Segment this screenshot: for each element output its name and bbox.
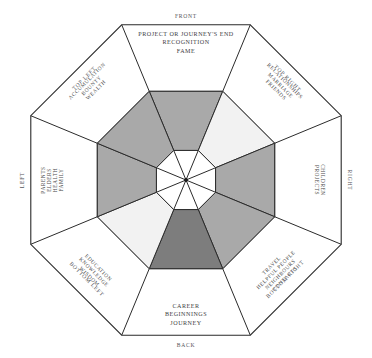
direction-label-front: FRONT (175, 13, 197, 19)
sector-keyword-right: CHILDREN (320, 164, 326, 196)
direction-label-back: BACK (177, 342, 196, 348)
octagon-diagram: PROJECT OR JOURNEY'S ENDRECOGNITIONFAMER… (0, 0, 372, 358)
center-dot (184, 178, 188, 182)
direction-label-left: LEFT (19, 172, 25, 188)
sector-keyword-left: FAMILY (58, 168, 64, 191)
sector-keyword-left: ELDERS (46, 168, 52, 192)
sector-keyword-front: PROJECT OR JOURNEY'S END (138, 31, 234, 37)
sector-keyword-front: RECOGNITION (162, 39, 209, 45)
direction-label-right: RIGHT (347, 170, 353, 191)
sector-keyword-left: PARENTS (40, 166, 46, 193)
diagram-canvas: PROJECT OR JOURNEY'S ENDRECOGNITIONFAMER… (0, 0, 372, 358)
core-group (156, 150, 215, 209)
sector-keyword-right: PROJECTS (314, 165, 320, 195)
sector-keyword-back: BEGINNINGS (165, 311, 207, 317)
sector-keyword-left: HEALTH (52, 168, 58, 192)
sector-keyword-back: JOURNEY (170, 320, 201, 326)
sector-keyword-back: CAREER (172, 303, 199, 309)
sector-keyword-front: FAME (177, 48, 195, 54)
